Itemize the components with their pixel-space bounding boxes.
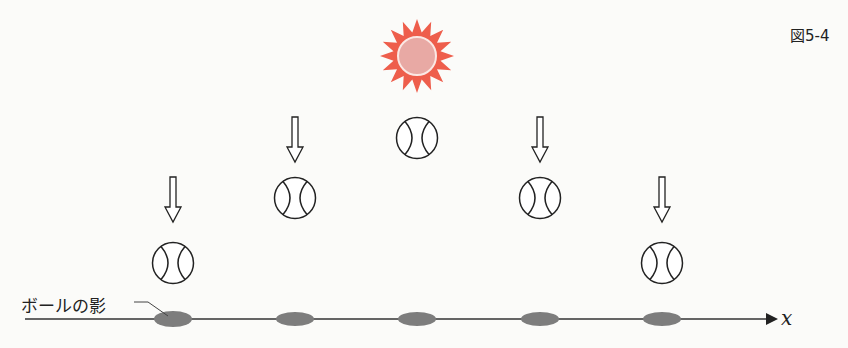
x-axis-arrowhead (766, 313, 778, 325)
tennis-ball-icon (642, 243, 683, 284)
figure-label: 図5-4 (790, 24, 830, 45)
shadow-label: ボールの影 (21, 292, 106, 317)
falling-arrow-4 (654, 177, 670, 222)
tennis-ball-icon (275, 178, 316, 219)
diagram-canvas (0, 0, 848, 348)
x-axis-label: x (781, 306, 792, 330)
tennis-ball-icon (397, 118, 438, 159)
falling-arrow-3 (532, 117, 548, 162)
sun-icon (380, 19, 454, 93)
tennis-ball-icon (520, 178, 561, 219)
falling-arrow-2 (287, 117, 303, 162)
falling-arrow-1 (165, 177, 181, 222)
tennis-ball-icon (153, 243, 194, 284)
